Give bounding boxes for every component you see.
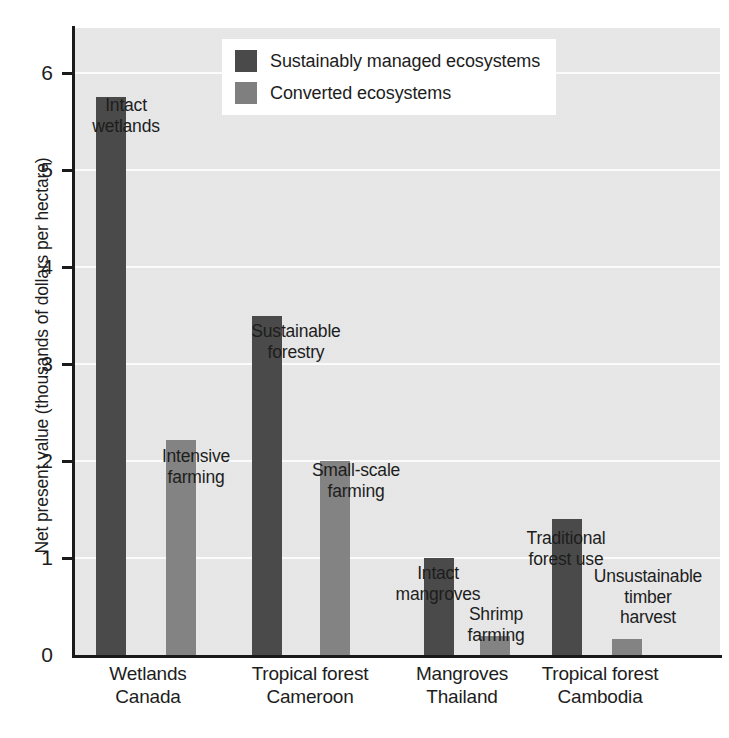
bar-annotation-label: Intact mangroves [396, 563, 481, 604]
bar-annotation-label: Shrimp farming [468, 604, 525, 645]
y-axis-tick-label: 2 [9, 449, 53, 473]
bar [96, 97, 126, 655]
y-axis-tick-label: 3 [9, 352, 53, 376]
gridline [75, 169, 720, 171]
bar-annotation-label: Sustainable forestry [251, 321, 340, 362]
y-axis-tick [62, 363, 75, 366]
legend-swatch-icon-sustainable [235, 50, 257, 72]
y-axis-tick-label: 1 [9, 546, 53, 570]
bar-annotation-label: Traditional forest use [527, 528, 606, 569]
x-axis-category-label: Tropical forest Cambodia [542, 662, 659, 708]
y-axis-tick-label: 6 [9, 61, 53, 85]
x-axis-line [72, 655, 722, 658]
bar [252, 316, 282, 656]
legend-item-converted: Converted ecosystems [235, 82, 540, 104]
gridline [75, 363, 720, 365]
y-axis-tick-label: 0 [9, 643, 53, 667]
y-axis-tick [62, 557, 75, 560]
legend-item-sustainable: Sustainably managed ecosystems [235, 50, 540, 72]
legend-swatch-icon-converted [235, 82, 257, 104]
y-axis-tick [62, 266, 75, 269]
y-axis-tick [62, 72, 75, 75]
legend-label-sustainable: Sustainably managed ecosystems [270, 51, 540, 72]
gridline [75, 266, 720, 268]
y-axis-tick [62, 169, 75, 172]
y-axis-tick-label: 5 [9, 158, 53, 182]
bar-chart-figure: Net present value (thousands of dollars … [0, 0, 729, 738]
x-axis-category-label: Wetlands Canada [109, 662, 186, 708]
chart-legend: Sustainably managed ecosystems Converted… [222, 39, 556, 115]
x-axis-category-label: Tropical forest Cameroon [252, 662, 369, 708]
bar-annotation-label: Intact wetlands [92, 95, 159, 136]
bar-annotation-label: Unsustainable timber harvest [594, 566, 702, 628]
bar-annotation-label: Small-scale farming [312, 460, 400, 501]
x-axis-category-label: Mangroves Thailand [416, 662, 508, 708]
legend-label-converted: Converted ecosystems [270, 83, 451, 104]
bar [612, 639, 642, 655]
bar-annotation-label: Intensive farming [162, 446, 230, 487]
y-axis-tick [62, 460, 75, 463]
y-axis-tick-label: 4 [9, 255, 53, 279]
